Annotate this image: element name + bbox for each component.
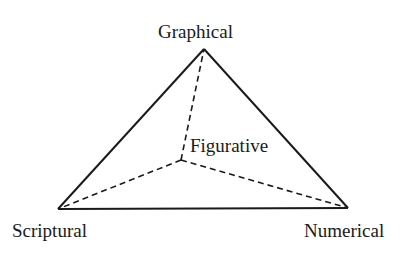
edge-graphical-numerical xyxy=(204,49,348,208)
triangle-diagram: Graphical Figurative Scriptural Numerica… xyxy=(0,0,411,256)
inner-label-figurative: Figurative xyxy=(190,136,268,155)
dashed-edge-figurative-scriptural xyxy=(58,160,181,209)
vertex-label-numerical: Numerical xyxy=(304,221,384,240)
vertex-label-graphical: Graphical xyxy=(158,22,233,41)
dashed-edge-figurative-numerical xyxy=(181,160,348,208)
vertex-label-scriptural: Scriptural xyxy=(12,221,87,240)
edge-graphical-scriptural xyxy=(58,49,204,209)
edge-scriptural-numerical xyxy=(58,208,348,209)
